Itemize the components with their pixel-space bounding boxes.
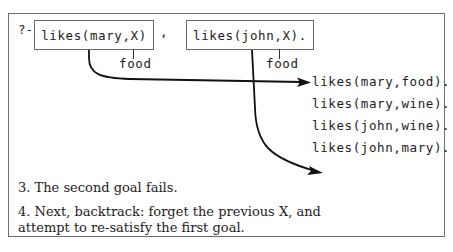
arrowhead-icon — [307, 166, 323, 175]
step-4-continuation: attempt to re-satisfy the first goal. — [18, 220, 245, 235]
match-arrow-icon — [89, 50, 302, 82]
fail-arrow-icon — [252, 50, 315, 171]
step-4-text: 4. Next, backtrack: forget the previous … — [18, 204, 321, 219]
step-3-text: 3. The second goal fails. — [18, 180, 178, 195]
